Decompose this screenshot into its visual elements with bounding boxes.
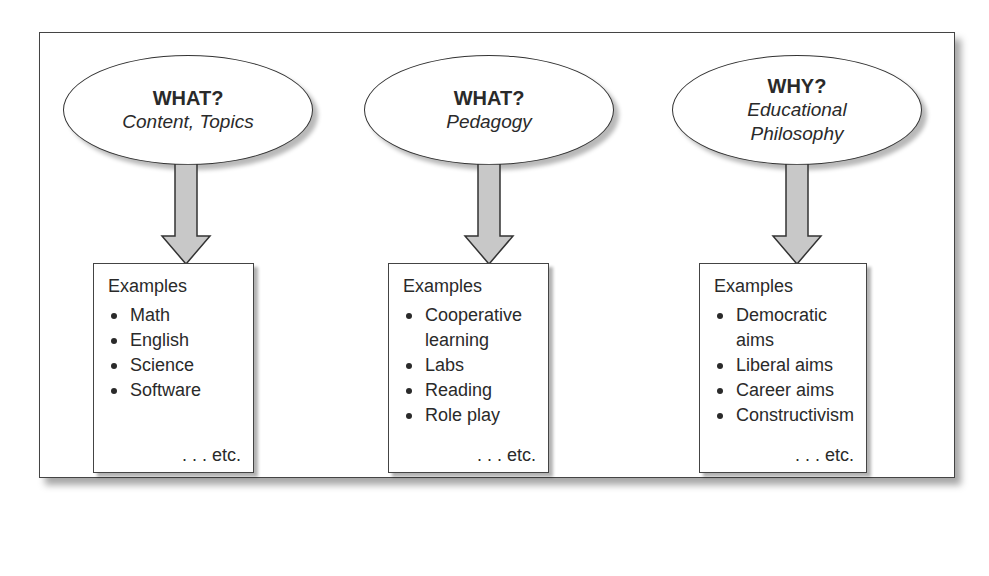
list-item: Science (108, 353, 253, 378)
etc-label: . . . etc. (795, 445, 854, 466)
examples-list: Math English Science Software (108, 303, 253, 403)
examples-heading: Examples (108, 274, 253, 299)
list-item: Career aims (714, 378, 866, 403)
etc-label: . . . etc. (182, 445, 241, 466)
list-item: Reading (403, 378, 548, 403)
examples-list: Democratic aims Liberal aims Career aims… (714, 303, 866, 428)
list-item: Cooperative learning (403, 303, 548, 353)
question-label: WHAT? (454, 86, 525, 110)
examples-heading: Examples (403, 274, 548, 299)
examples-box-content: Examples Math English Science Software .… (93, 263, 254, 473)
down-arrow-icon (771, 164, 823, 266)
list-item: Labs (403, 353, 548, 378)
examples-box-pedagogy: Examples Cooperative learning Labs Readi… (388, 263, 549, 473)
down-arrow-icon (160, 164, 212, 266)
list-item: English (108, 328, 253, 353)
ellipse-content-topics: WHAT? Content, Topics (63, 55, 313, 165)
question-label: WHAT? (153, 86, 224, 110)
list-item: Math (108, 303, 253, 328)
examples-list: Cooperative learning Labs Reading Role p… (403, 303, 548, 428)
subtitle-label: Philosophy (751, 122, 844, 146)
list-item: Democratic aims (714, 303, 866, 353)
examples-box-philosophy: Examples Democratic aims Liberal aims Ca… (699, 263, 867, 473)
ellipse-pedagogy: WHAT? Pedagogy (364, 55, 614, 165)
ellipse-educational-philosophy: WHY? Educational Philosophy (672, 55, 922, 165)
list-item: Constructivism (714, 403, 866, 428)
list-item: Liberal aims (714, 353, 866, 378)
list-item: Software (108, 378, 253, 403)
subtitle-label: Educational (747, 98, 846, 122)
subtitle-label: Content, Topics (122, 110, 253, 134)
down-arrow-icon (463, 164, 515, 266)
subtitle-label: Pedagogy (446, 110, 532, 134)
etc-label: . . . etc. (477, 445, 536, 466)
list-item: Role play (403, 403, 548, 428)
examples-heading: Examples (714, 274, 866, 299)
question-label: WHY? (768, 74, 827, 98)
